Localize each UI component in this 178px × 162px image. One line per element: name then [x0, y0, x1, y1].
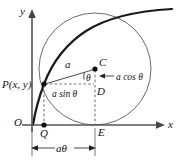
- arc-length-label: aθ: [56, 142, 68, 154]
- radius-label: a: [65, 58, 71, 70]
- cycloid-figure: y x O P(x, y) C D E Q a θ a sin θ: [0, 0, 178, 162]
- y-axis-arrowhead: [28, 9, 36, 18]
- point-dot-p: [41, 81, 46, 86]
- a-cos-theta-arrowhead: [99, 73, 105, 78]
- horizontal-leg-label: a sin θ: [52, 89, 78, 99]
- point-label-c: C: [99, 56, 107, 68]
- point-label-q: Q: [40, 127, 48, 139]
- y-axis-label: y: [19, 5, 25, 17]
- vertical-leg-label: a cos θ: [116, 72, 143, 82]
- angle-label-theta: θ: [86, 73, 91, 83]
- origin-label: O: [14, 116, 22, 128]
- point-dot-c: [92, 66, 97, 71]
- x-axis-arrowhead: [156, 121, 165, 129]
- figure-svg: y x O P(x, y) C D E Q a θ a sin θ: [0, 0, 178, 162]
- angle-arc-theta: [84, 73, 85, 80]
- x-axis-label: x: [167, 118, 173, 130]
- point-label-d: D: [96, 85, 105, 97]
- point-label-e: E: [97, 126, 105, 138]
- point-label-p: P(x, y): [1, 78, 32, 91]
